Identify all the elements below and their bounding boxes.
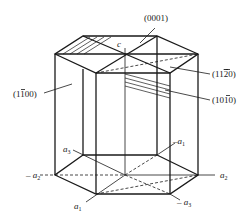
hexagonal-prism-diagram: (0001) (1120) (1010) (1100) c –a1 a3 – a… bbox=[0, 0, 251, 223]
label-a1: a1 bbox=[74, 201, 82, 212]
label-0001: (0001) bbox=[144, 13, 168, 23]
label-1-100: (1100) bbox=[13, 89, 37, 99]
label-a3: a3 bbox=[63, 144, 71, 155]
label-a2: a2 bbox=[220, 170, 228, 181]
label-c-axis: c bbox=[117, 39, 121, 49]
label-neg-a3: – a3 bbox=[176, 197, 191, 208]
vertical-edges bbox=[55, 36, 198, 194]
label-10-10: (1010) bbox=[212, 95, 236, 105]
label-neg-a2: – a2 bbox=[25, 170, 40, 181]
label-neg-a1: –a1 bbox=[172, 136, 185, 147]
leader-lines bbox=[44, 28, 210, 100]
top-hexagon bbox=[55, 36, 198, 73]
label-11-20: (1120) bbox=[212, 69, 236, 79]
prism-plane-hatching bbox=[125, 74, 170, 98]
